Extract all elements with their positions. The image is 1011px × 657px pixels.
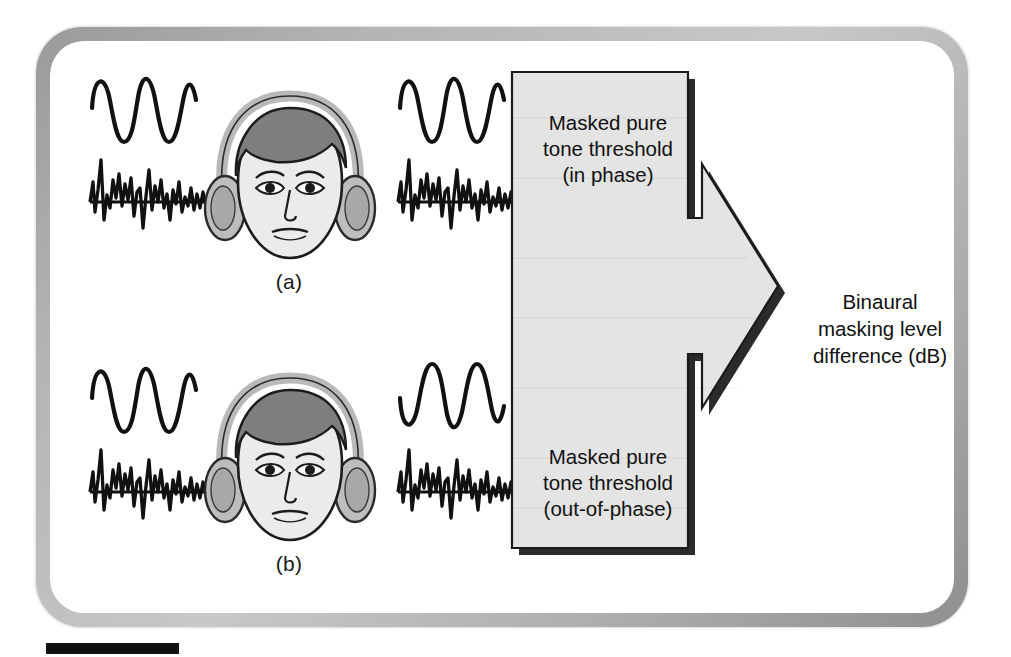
result-line-2: masking level — [780, 315, 980, 342]
box-bottom-line-3: (out-of-phase) — [513, 496, 703, 522]
panel-b-right-tone-waveform-inverted — [396, 358, 514, 440]
panel-a-left-noise-waveform — [84, 150, 214, 240]
result-line-1: Binaural — [780, 288, 980, 315]
panel-label-a: (a) — [249, 270, 329, 294]
masked-threshold-in-phase-label: Masked pure tone threshold (in phase) — [513, 110, 703, 188]
panel-b-head-with-headphones — [196, 368, 384, 548]
panel-a-head-with-headphones — [196, 86, 384, 266]
binaural-masking-level-difference-label: Binaural masking level difference (dB) — [780, 288, 980, 369]
panel-b-left-tone-waveform — [88, 358, 206, 440]
panel-b-left-noise-waveform — [84, 440, 214, 530]
figure-canvas: (a) — [0, 0, 1011, 657]
panel-a-left-tone-waveform — [88, 68, 206, 150]
result-line-3: difference (dB) — [780, 342, 980, 369]
masked-threshold-out-of-phase-label: Masked pure tone threshold (out-of-phase… — [513, 444, 703, 522]
box-bottom-line-1: Masked pure — [513, 444, 703, 470]
box-top-line-2: tone threshold — [513, 136, 703, 162]
box-top-line-3: (in phase) — [513, 162, 703, 188]
box-bottom-line-2: tone threshold — [513, 470, 703, 496]
panel-a-right-tone-waveform — [396, 68, 514, 150]
panel-label-b: (b) — [249, 552, 329, 576]
box-top-line-1: Masked pure — [513, 110, 703, 136]
scale-bar — [46, 643, 179, 654]
